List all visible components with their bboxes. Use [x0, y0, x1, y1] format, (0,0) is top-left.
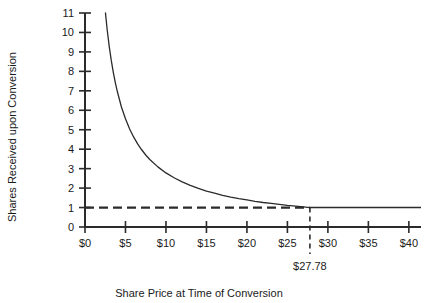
x-axis-title: Share Price at Time of Conversion: [115, 287, 283, 299]
y-tick-label: 2: [68, 182, 74, 194]
y-tick-label: 6: [68, 104, 74, 116]
x-tick-label: $15: [197, 237, 215, 249]
y-tick-label: 9: [68, 46, 74, 58]
y-tick-label: 4: [68, 143, 74, 155]
conversion-ratio-curve: [105, 13, 309, 208]
y-tick-label: 1: [68, 202, 74, 214]
y-tick-label: 11: [63, 7, 74, 19]
x-tick-label: $10: [157, 237, 175, 249]
y-tick-label: 7: [68, 85, 74, 97]
chart-container: Shares Received upon Conversion Share Pr…: [0, 0, 427, 303]
y-axis-title: Shares Received upon Conversion: [6, 52, 18, 222]
y-tick-label: 3: [68, 163, 74, 175]
y-tick-label: 5: [68, 124, 74, 136]
y-tick-label: 0: [68, 221, 74, 233]
y-tick-label: 10: [62, 26, 74, 38]
x-tick-label: $25: [278, 237, 296, 249]
x-tick-label: $5: [119, 237, 131, 249]
x-tick-label: $35: [359, 237, 377, 249]
conversion-price-marker-label: $27.78: [293, 260, 327, 272]
x-axis-ticks: $0$5$10$15$20$25$30$35$40: [79, 221, 418, 249]
y-tick-label: 8: [68, 65, 74, 77]
conversion-ratio-chart: Shares Received upon Conversion Share Pr…: [0, 0, 427, 303]
x-tick-label: $0: [79, 237, 91, 249]
y-axis-ticks: 01234567891011: [62, 7, 91, 233]
x-tick-label: $30: [319, 237, 337, 249]
x-tick-label: $40: [400, 237, 418, 249]
x-tick-label: $20: [238, 237, 256, 249]
